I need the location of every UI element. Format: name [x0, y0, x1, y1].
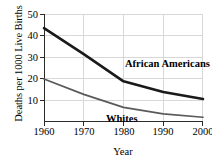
infant-mortality-line-chart: Deaths per 1000 Live Births Year 50 40 3…: [0, 0, 212, 162]
x-tick-label-1980: 1980: [104, 126, 144, 137]
x-tick-label-2000: 2000: [183, 126, 212, 137]
x-axis-title: Year: [43, 146, 203, 157]
x-tick-1960: [44, 122, 45, 126]
y-tick-label-50: 50: [8, 9, 38, 20]
x-tick-label-1960: 1960: [24, 126, 64, 137]
y-tick-label-40: 40: [8, 30, 38, 41]
y-tick-label-30: 30: [8, 52, 38, 63]
x-tick-1990: [163, 122, 164, 126]
x-tick-label-1990: 1990: [143, 126, 183, 137]
y-tick-label-20: 20: [8, 73, 38, 84]
x-tick-2000: [202, 122, 203, 126]
series-label-african-americans: African Americans: [125, 58, 210, 69]
plot-area: African Americans Whites: [44, 14, 203, 122]
x-tick-label-1970: 1970: [64, 126, 104, 137]
series-label-whites: Whites: [106, 113, 138, 124]
y-tick-label-10: 10: [8, 95, 38, 106]
x-tick-1970: [83, 122, 84, 126]
line-whites: [44, 79, 203, 117]
